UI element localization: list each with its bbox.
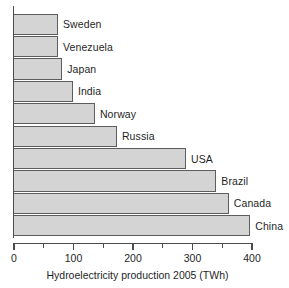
bar-category-label: China <box>255 220 283 232</box>
bar-category-label: Canada <box>234 197 271 209</box>
x-axis-major-tick <box>73 244 74 250</box>
bar <box>14 14 58 35</box>
x-axis-title: Hydroelectricity production 2005 (TWh) <box>0 269 275 281</box>
bar-row: Canada <box>14 192 274 214</box>
bar <box>14 81 73 102</box>
bar-row: Norway <box>14 103 274 125</box>
x-axis-tick-label: 200 <box>124 252 142 264</box>
bar-category-label: Brazil <box>221 175 248 187</box>
hydroelectricity-bar-chart: SwedenVenezuelaJapanIndiaNorwayRussiaUSA… <box>0 0 289 288</box>
x-axis-minor-tick <box>43 244 44 248</box>
bar-row: USA <box>14 147 274 169</box>
x-axis-minor-tick <box>162 244 163 248</box>
x-axis-major-tick <box>192 244 193 250</box>
plot-area: SwedenVenezuelaJapanIndiaNorwayRussiaUSA… <box>0 0 289 238</box>
x-axis-tick-label: 400 <box>243 252 261 264</box>
x-axis-major-tick <box>132 244 133 250</box>
bar <box>14 36 58 57</box>
bar <box>14 103 95 124</box>
bar <box>14 215 250 236</box>
bar-category-label: India <box>78 85 101 97</box>
x-axis-minor-tick <box>103 244 104 248</box>
bar-row: Sweden <box>14 13 274 35</box>
bar-category-label: USA <box>191 153 213 165</box>
bar-series: SwedenVenezuelaJapanIndiaNorwayRussiaUSA… <box>14 13 274 237</box>
bar <box>14 58 62 79</box>
bar-row: India <box>14 80 274 102</box>
x-axis-tick-label: 0 <box>11 252 17 264</box>
bar-category-label: Venezuela <box>63 41 113 53</box>
bar <box>14 148 186 169</box>
x-axis-major-tick <box>13 244 14 250</box>
bar-category-label: Sweden <box>63 18 102 30</box>
x-axis-major-tick <box>251 244 252 250</box>
bar-category-label: Norway <box>100 108 136 120</box>
bar-row: China <box>14 215 274 237</box>
bar <box>14 193 229 214</box>
bar-row: Venezuela <box>14 35 274 57</box>
x-axis-tick-label: 100 <box>65 252 83 264</box>
x-axis-minor-tick <box>222 244 223 248</box>
bar-row: Russia <box>14 125 274 147</box>
bar-category-label: Japan <box>67 63 96 75</box>
x-axis-tick-label: 300 <box>184 252 202 264</box>
bar <box>14 126 117 147</box>
bar-row: Japan <box>14 58 274 80</box>
bar <box>14 170 216 191</box>
bar-row: Brazil <box>14 170 274 192</box>
bar-category-label: Russia <box>122 130 155 142</box>
